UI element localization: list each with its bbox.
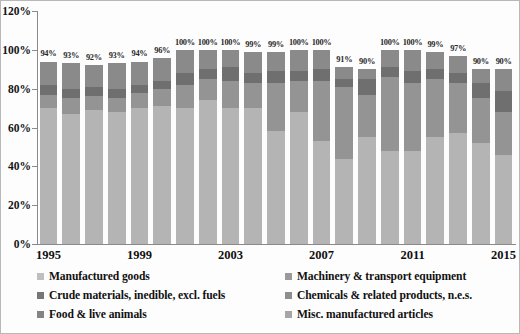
bar-column: [244, 52, 262, 244]
legend-label: Food & live animals: [49, 308, 147, 321]
bar-column: [222, 50, 240, 244]
x-axis-line: [37, 244, 516, 245]
legend-swatch-icon: [37, 273, 44, 280]
bar-segment: [335, 79, 353, 87]
bar-segment: [131, 108, 149, 244]
legend-label: Misc. manufactured articles: [297, 308, 433, 321]
x-tick-label: 2011: [400, 248, 424, 263]
legend-swatch-icon: [285, 273, 292, 280]
bar-segment: [222, 108, 240, 244]
bar-column: [495, 69, 513, 244]
y-axis-tick-labels: 0%20%40%60%80%100%120%: [1, 1, 33, 334]
bar-segment: [313, 50, 331, 69]
bar-segment: [426, 137, 444, 244]
bar-segment: [495, 69, 513, 90]
legend-item[interactable]: Food & live animals: [37, 305, 285, 324]
bar-data-label: 96%: [154, 46, 170, 55]
legend-item[interactable]: Manufactured goods: [37, 267, 285, 286]
bar-column: [176, 50, 194, 244]
bar-segment: [426, 69, 444, 79]
legend-item[interactable]: Crude materials, inedible, excl. fuels: [37, 286, 285, 305]
bar-column: [267, 52, 285, 244]
legend-item[interactable]: Chemicals & related products, n.e.s.: [285, 286, 515, 305]
bar-segment: [404, 50, 422, 71]
bar-data-label: 99%: [245, 40, 261, 49]
bar-data-label: 99%: [268, 40, 284, 49]
bar-segment: [472, 69, 490, 83]
bar-segment: [381, 151, 399, 244]
bar-segment: [244, 83, 262, 108]
legend-label: Chemicals & related products, n.e.s.: [297, 289, 472, 302]
bar-segment: [176, 73, 194, 85]
plot-area: 94%93%92%93%94%96%100%100%100%99%99%100%…: [37, 11, 515, 244]
bar-segment: [85, 65, 103, 86]
bar-column: [40, 61, 58, 244]
bar-segment: [313, 81, 331, 141]
bar-segment: [495, 112, 513, 155]
bar-segment: [404, 83, 422, 151]
bar-column: [404, 50, 422, 244]
bar-segment: [381, 77, 399, 151]
bar-segment: [426, 52, 444, 69]
bar-data-label: 94%: [131, 49, 147, 58]
bar-segment: [153, 89, 171, 106]
bar-segment: [131, 85, 149, 93]
bar-segment: [40, 95, 58, 109]
bar-column: [381, 50, 399, 244]
bar-data-label: 94%: [40, 49, 56, 58]
x-tick-label: 2007: [309, 248, 334, 263]
x-tick-label: 2015: [491, 248, 516, 263]
bar-data-label: 90%: [496, 57, 512, 66]
bar-segment: [495, 155, 513, 244]
legend-label: Manufactured goods: [49, 270, 150, 283]
bar-column: [85, 65, 103, 244]
bar-column: [313, 50, 331, 244]
bar-segment: [244, 108, 262, 244]
bar-segment: [358, 137, 376, 244]
bar-segment: [267, 131, 285, 244]
bar-column: [131, 61, 149, 244]
bar-segment: [472, 83, 490, 99]
bar-data-label: 90%: [359, 57, 375, 66]
bar-segment: [85, 110, 103, 244]
bar-segment: [381, 67, 399, 77]
bar-segment: [40, 85, 58, 95]
bar-segment: [267, 83, 285, 132]
bar-segment: [358, 79, 376, 95]
bar-data-label: 91%: [336, 55, 352, 64]
legend-swatch-icon: [37, 311, 44, 318]
bar-segment: [267, 52, 285, 71]
bar-segment: [131, 62, 149, 85]
legend-item[interactable]: Machinery & transport equipment: [285, 267, 515, 286]
bar-column: [153, 58, 171, 244]
bar-segment: [108, 63, 126, 88]
stacked-bar-chart: 0%20%40%60%80%100%120% 94%93%92%93%94%96…: [0, 0, 520, 334]
bar-segment: [313, 69, 331, 81]
bar-segment: [244, 73, 262, 83]
bar-column: [358, 69, 376, 244]
legend-swatch-icon: [285, 292, 292, 299]
bar-column: [472, 69, 490, 244]
bar-segment: [290, 71, 308, 81]
bar-segment: [176, 108, 194, 244]
bar-segment: [244, 52, 262, 73]
legend-item[interactable]: Misc. manufactured articles: [285, 305, 515, 324]
bar-data-label: 97%: [450, 44, 466, 53]
bar-column: [426, 52, 444, 244]
legend-swatch-icon: [37, 292, 44, 299]
bar-column: [199, 50, 217, 244]
y-tick-mark: [32, 244, 37, 245]
x-axis-tick-labels: 199519992003200720112015: [1, 248, 520, 268]
bar-segment: [199, 79, 217, 100]
bar-segment: [313, 141, 331, 244]
bar-segment: [131, 93, 149, 109]
bar-data-label: 99%: [427, 40, 443, 49]
bar-segment: [449, 56, 467, 73]
bar-data-label: 93%: [63, 51, 79, 60]
bar-segment: [381, 50, 399, 67]
bar-data-label: 100%: [175, 38, 195, 47]
bar-segment: [472, 98, 490, 143]
bar-segment: [358, 95, 376, 138]
x-tick-label: 1995: [36, 248, 61, 263]
bar-column: [449, 56, 467, 244]
